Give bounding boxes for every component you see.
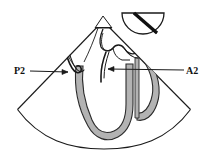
sector-bottom-arc (18, 110, 191, 150)
annotation-p2: P2 (14, 65, 68, 76)
sector-apex-triangle (95, 16, 112, 28)
cardiac-structures (62, 28, 159, 140)
p2-arrowhead-icon (62, 70, 68, 75)
transducer-orientation-icon (122, 13, 164, 34)
sector-left-edge (18, 21, 104, 110)
probe-semicircle-outline (122, 13, 164, 34)
right-chamber-inner-strip (135, 58, 139, 118)
septum-lower-outline (113, 48, 130, 60)
p2-label: P2 (14, 65, 25, 76)
aortic-root-outline-inner (102, 33, 115, 51)
echo-sector-figure: P2 A2 (0, 0, 210, 157)
a2-leader-line (108, 69, 184, 70)
ultrasound-sector-fan (18, 21, 191, 149)
right-ventricular-loop (137, 58, 159, 120)
a2-arrowhead-icon (108, 67, 114, 72)
a2-label: A2 (186, 65, 198, 76)
echo-diagram-svg: P2 A2 (0, 0, 210, 157)
